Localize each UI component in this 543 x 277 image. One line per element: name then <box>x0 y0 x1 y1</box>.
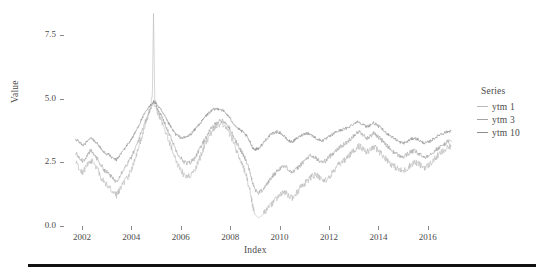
legend-item-label: ytm 1 <box>492 102 515 112</box>
series-line-ytm-1 <box>76 13 452 218</box>
legend-swatch-icon <box>477 119 488 120</box>
legend-title: Series <box>481 86 541 96</box>
legend-swatch-icon <box>477 132 488 133</box>
legend-item-label: ytm 10 <box>492 128 520 138</box>
legend-swatch-icon <box>477 106 488 107</box>
legend-item-ytm-3[interactable]: ytm 3 <box>477 113 541 126</box>
bottom-rule <box>28 264 536 267</box>
legend-item-ytm-1[interactable]: ytm 1 <box>477 100 541 113</box>
chart-figure: Value Index 0.02.55.07.5 200220042006200… <box>0 0 543 277</box>
legend-item-label: ytm 3 <box>492 115 515 125</box>
legend-item-ytm-10[interactable]: ytm 10 <box>477 126 541 139</box>
plot-area <box>0 0 543 277</box>
series-line-ytm-3 <box>76 100 452 194</box>
legend-items: ytm 1ytm 3ytm 10 <box>481 100 541 139</box>
legend: Series ytm 1ytm 3ytm 10 <box>481 86 541 139</box>
